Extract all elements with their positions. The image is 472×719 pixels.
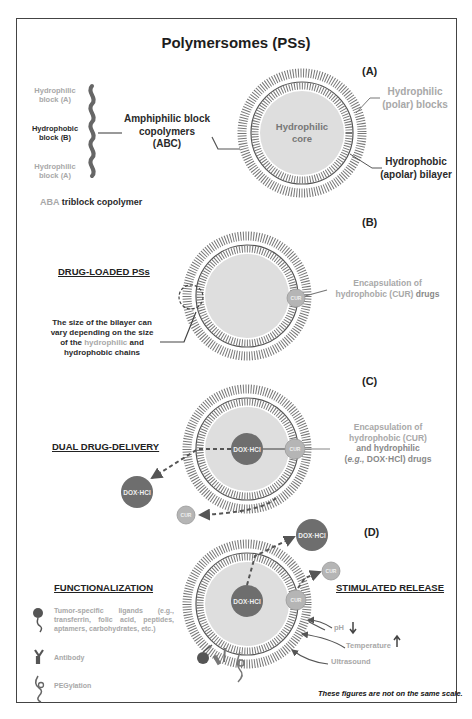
triblock-caption: ABA triblock copolymer: [40, 197, 142, 208]
cur-drug-c-released: CUR: [177, 512, 195, 518]
dox-hcl-drug-d-released: DOX·HCl: [296, 532, 328, 539]
cur-drug-b: CUR: [287, 295, 305, 301]
peg-icon: [36, 676, 44, 702]
antibody-icon: [35, 650, 43, 664]
panel-label-c: (C): [362, 375, 377, 389]
ligand-icon: [33, 608, 43, 632]
stimulated-release-title: STIMULATED RELEASE: [336, 582, 444, 594]
amphiphilic-label: Amphiphilic blockcopolymers(ABC): [122, 113, 212, 151]
dox-hcl-drug-c-released: DOX·HCl: [121, 489, 153, 496]
block-b-label: Hydrophobicblock (B): [30, 124, 80, 143]
stimulus-ph: pH: [334, 623, 344, 632]
drug-loaded-title: DRUG-LOADED PSs: [58, 266, 150, 278]
bilayer-size-note: The size of the bilayer can vary dependi…: [48, 318, 156, 358]
cur-drug-d-inner: CUR: [287, 597, 305, 603]
polar-blocks-label: Hydrophilic(polar) blocks: [380, 86, 450, 111]
scale-footnote: These figures are not on the same scale.: [318, 689, 463, 698]
dox-hcl-drug-c-inner: DOX·HCl: [231, 446, 263, 453]
encapsulation-c-label: Encapsulation of hydrophobic (CUR) and h…: [333, 422, 443, 465]
panel-label-b: (B): [362, 216, 377, 230]
encapsulation-b-label: Encapsulation of hydrophobic (CUR) drugs: [330, 278, 445, 299]
dox-hcl-drug-d-inner: DOX·HCl: [231, 598, 263, 605]
panel-label-d: (D): [364, 526, 379, 540]
core-label: Hydrophiliccore: [262, 121, 342, 145]
functionalization-title: FUNCTIONALIZATION: [54, 582, 153, 594]
pegylation-legend-text: PEGylation: [54, 682, 91, 691]
copolymer-chain-icon: [90, 86, 93, 176]
dual-delivery-title: DUAL DRUG-DELIVERY: [52, 441, 159, 453]
panel-label-a: (A): [362, 65, 377, 79]
block-a-bottom-label: Hydrophilicblock (A): [30, 162, 80, 181]
apolar-bilayer-label: Hydrophobic(apolar) bilayer: [378, 156, 454, 181]
stimulus-temperature: Temperature: [346, 641, 391, 650]
cur-drug-d-released: CUR: [322, 568, 340, 574]
antibody-legend-text: Antibody: [54, 654, 84, 663]
stimulus-ultrasound: Ultrasound: [331, 657, 371, 666]
ligand-legend-text: Tumor-specific ligands (e.g., transferri…: [54, 607, 174, 633]
block-a-top-label: Hydrophilicblock (A): [30, 86, 80, 105]
figure-title: Polymersomes (PSs): [0, 34, 472, 53]
cur-drug-c-inner: CUR: [286, 446, 304, 452]
